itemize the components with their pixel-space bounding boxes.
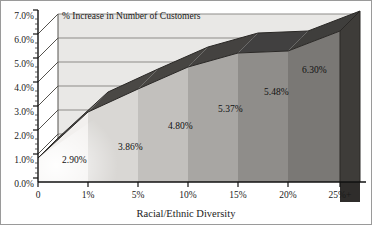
y-tick-label-7: 7.0% [2,12,34,22]
y-tick-label-0: 0.0% [2,180,34,190]
x-tick-label-0: 0 [18,191,58,201]
data-label-3: 4.80% [168,122,193,132]
chart-figure: % Increase in Number of Customers 7.0% 6… [0,0,372,225]
y-tick-label-6: 6.0% [2,36,34,46]
x-tick-label-1: 1% [68,191,108,201]
x-tick-label-2: 5% [118,191,158,201]
y-tick-label-3: 3.0% [2,108,34,118]
data-label-6: 6.30% [302,66,327,76]
y-tick-label-1: 1.0% [2,156,34,166]
data-label-5: 5.48% [264,88,289,98]
y-tick-label-5: 5.0% [2,60,34,70]
area-band-4 [238,51,288,182]
x-axis-title: Racial/Ethnic Diversity [0,209,372,220]
area-band-5 [288,31,340,182]
data-label-4: 5.37% [218,105,243,115]
data-label-1: 2.90% [62,156,87,166]
x-tick-label-5: 20% [268,191,308,201]
chart-title: % Increase in Number of Customers [62,12,201,22]
x-tick-label-4: 15% [218,191,258,201]
data-label-2: 3.86% [118,143,143,153]
x-tick-label-3: 10% [168,191,208,201]
y-tick-label-2: 2.0% [2,132,34,142]
ribbon-right-face [340,11,360,182]
y-tick-label-4: 4.0% [2,84,34,94]
area-band-3 [188,53,238,182]
x-tick-label-6: 25%+ [318,191,362,201]
